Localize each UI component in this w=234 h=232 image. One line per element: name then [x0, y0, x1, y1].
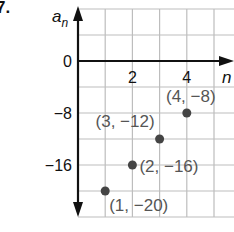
- data-points: (1, −20)(2, −16)(3, −12)(4, −8): [96, 87, 216, 215]
- y-axis-label: an: [52, 7, 68, 30]
- x-tick-label: 4: [182, 69, 191, 86]
- data-point: [155, 135, 164, 144]
- scatter-chart: 240−8−16 (1, −20)(2, −16)(3, −12)(4, −8)…: [0, 0, 234, 232]
- data-point-label: (4, −8): [166, 87, 216, 106]
- data-point: [128, 161, 137, 170]
- y-tick-label: 0: [63, 53, 72, 70]
- y-tick-label: −8: [54, 105, 72, 122]
- x-tick-label: 2: [128, 69, 137, 86]
- data-point: [182, 109, 191, 118]
- data-point-label: (1, −20): [109, 196, 168, 215]
- y-axis-down-arrow-icon: [73, 202, 83, 217]
- data-point-label: (3, −12): [96, 112, 155, 131]
- y-tick-label: −16: [45, 157, 72, 174]
- x-axis-label: n: [222, 68, 231, 87]
- data-point-label: (2, −16): [139, 157, 198, 176]
- x-axis-right-arrow-icon: [219, 56, 234, 66]
- y-axis-up-arrow-icon: [73, 6, 83, 21]
- data-point: [101, 187, 110, 196]
